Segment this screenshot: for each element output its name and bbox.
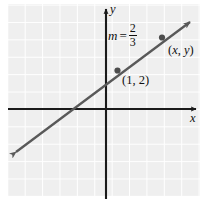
- slope-fraction: 2 3: [129, 22, 137, 48]
- point-label-x-y: (x, y): [168, 44, 194, 57]
- point-label-1-2: (1, 2): [122, 74, 149, 87]
- data-point-marker-x-y: [159, 34, 165, 40]
- data-point-marker-1-2: [114, 67, 120, 73]
- y-axis-label: y: [110, 3, 116, 16]
- plot-canvas: [0, 0, 208, 199]
- plotted-line: [16, 22, 190, 152]
- slope-variable: m: [108, 29, 117, 42]
- slope-numerator: 2: [129, 22, 137, 34]
- slope-annotation: m = 2 3: [108, 22, 137, 48]
- x-axis-label: x: [190, 112, 196, 125]
- graph-figure: y x m = 2 3 (1, 2) (x, y): [0, 0, 208, 199]
- slope-equals-sign: =: [119, 29, 126, 42]
- slope-denominator: 3: [129, 36, 137, 48]
- paren-close: ): [190, 43, 194, 57]
